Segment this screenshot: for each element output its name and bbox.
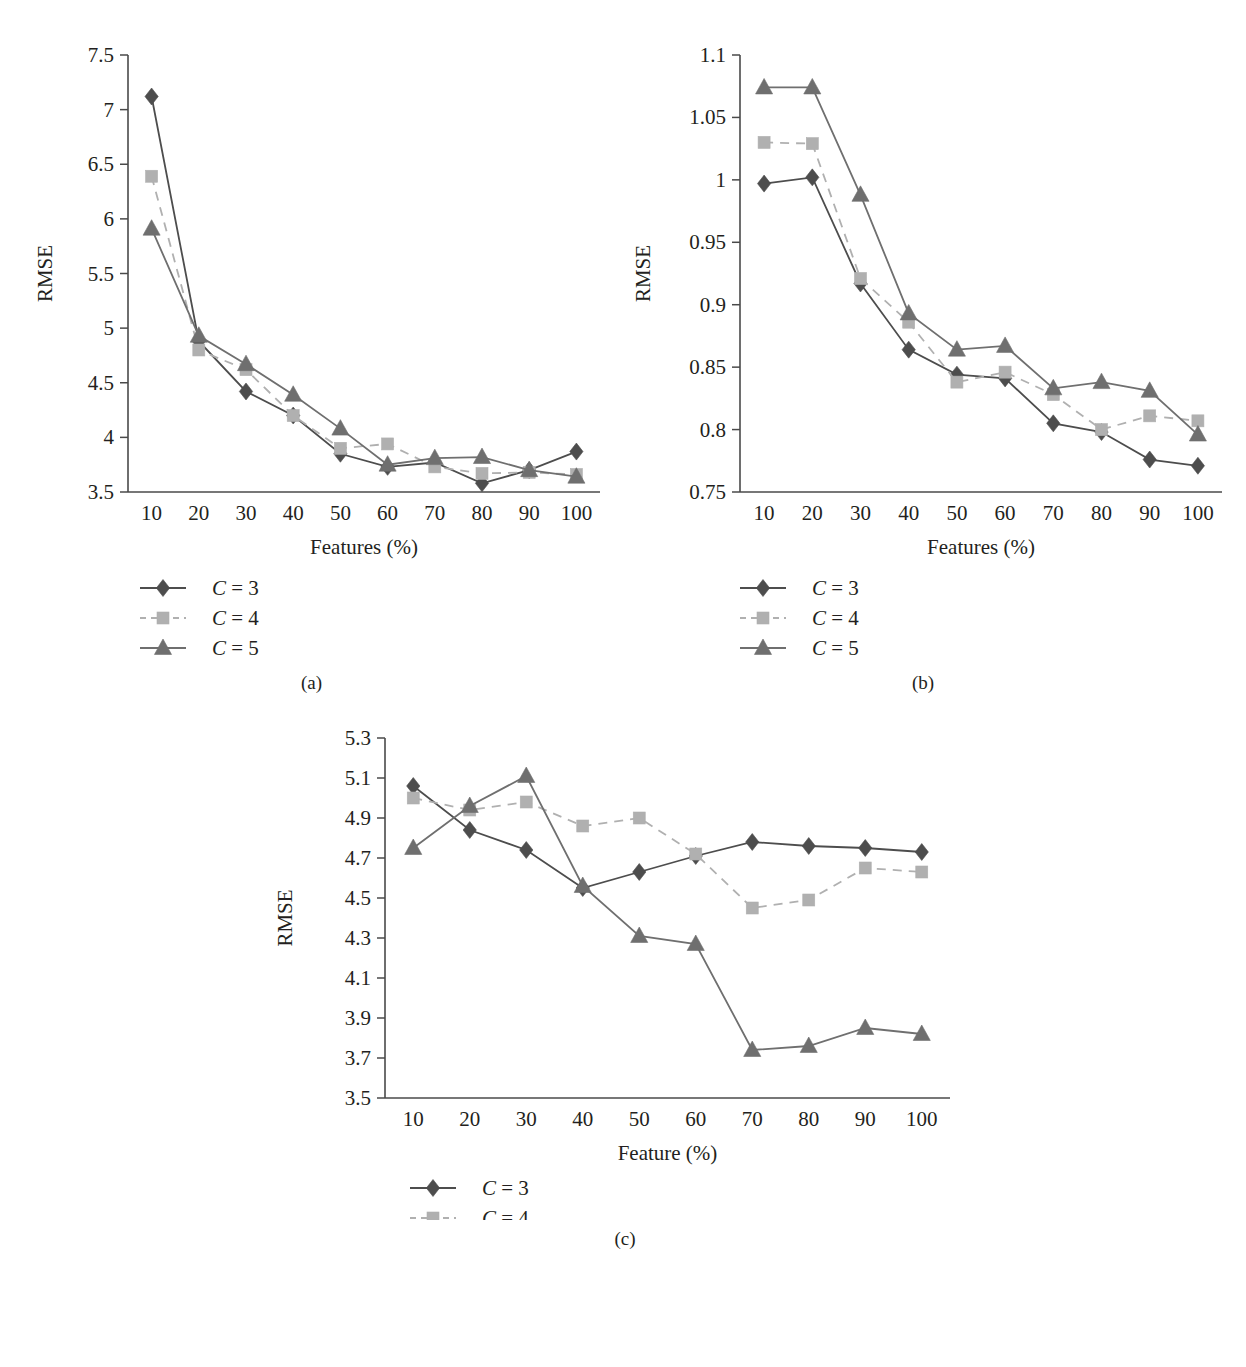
data-point-marker (473, 448, 490, 463)
data-point-marker (758, 136, 770, 148)
data-point-marker (518, 767, 535, 782)
x-tick-label: 50 (946, 501, 967, 525)
x-tick-label: 70 (742, 1107, 763, 1131)
y-tick-label: 6 (104, 207, 115, 231)
y-tick-label: 1.1 (700, 43, 726, 67)
data-point-marker (633, 864, 646, 881)
data-point-marker (803, 894, 815, 906)
subcaption-b: (b) (600, 672, 1246, 694)
x-axis-title: Features (%) (927, 535, 1035, 559)
data-point-marker (190, 327, 207, 342)
data-point-marker (1144, 410, 1156, 422)
y-tick-label: 1 (716, 168, 727, 192)
series-line (764, 142, 1198, 429)
y-tick-label: 5.1 (345, 766, 371, 790)
y-tick-label: 7.5 (88, 43, 114, 67)
data-point-marker (193, 344, 205, 356)
y-axis-title: RMSE (631, 245, 655, 302)
legend-label: C = 3 (212, 576, 259, 600)
data-point-marker (757, 175, 770, 192)
y-tick-label: 4.5 (88, 371, 114, 395)
series-line (413, 786, 922, 888)
data-point-marker (855, 272, 867, 284)
data-point-marker (334, 442, 346, 454)
y-tick-label: 3.5 (88, 480, 114, 504)
data-point-marker (1093, 373, 1110, 388)
legend-triangle-marker (154, 639, 171, 654)
x-tick-label: 100 (906, 1107, 938, 1131)
x-tick-label: 90 (1139, 501, 1160, 525)
chart-b: 0.750.80.850.90.9511.051.110203040506070… (600, 0, 1246, 660)
x-tick-label: 80 (1091, 501, 1112, 525)
data-point-marker (859, 840, 872, 857)
x-tick-label: 50 (330, 501, 351, 525)
data-point-marker (570, 443, 583, 460)
y-tick-label: 3.9 (345, 1006, 371, 1030)
x-axis-title: Feature (%) (618, 1141, 718, 1165)
x-tick-label: 60 (685, 1107, 706, 1131)
data-point-marker (804, 78, 821, 93)
series-C=3 (757, 169, 1204, 474)
legend-square-marker (757, 612, 769, 624)
x-tick-label: 80 (472, 501, 493, 525)
data-point-marker (951, 376, 963, 388)
y-tick-label: 0.8 (700, 418, 726, 442)
data-point-marker (806, 169, 819, 186)
chart-c: 3.53.73.94.14.34.54.74.95.15.31020304050… (230, 700, 1020, 1220)
series-C=4 (146, 170, 583, 480)
y-tick-label: 3.7 (345, 1046, 371, 1070)
x-tick-label: 90 (855, 1107, 876, 1131)
y-tick-label: 4 (104, 425, 115, 449)
x-tick-label: 10 (141, 501, 162, 525)
panel-c: 3.53.73.94.14.34.54.74.95.15.31020304050… (230, 700, 1020, 1260)
legend-label: C = 4 (482, 1206, 529, 1220)
legend-label: C = 4 (812, 606, 859, 630)
x-tick-label: 90 (519, 501, 540, 525)
data-point-marker (146, 170, 158, 182)
legend: C = 3C = 4C = 5 (410, 1176, 529, 1220)
legend-label: C = 3 (812, 576, 859, 600)
legend-label: C = 3 (482, 1176, 529, 1200)
y-tick-label: 4.7 (345, 846, 371, 870)
legend: C = 3C = 4C = 5 (140, 576, 259, 660)
data-point-marker (746, 902, 758, 914)
series-line (152, 229, 577, 477)
subcaption-c: (c) (230, 1228, 1020, 1250)
legend-diamond-marker (756, 580, 769, 597)
data-point-marker (633, 812, 645, 824)
legend-label: C = 4 (212, 606, 259, 630)
x-tick-label: 80 (798, 1107, 819, 1131)
data-point-marker (237, 355, 254, 370)
x-tick-label: 100 (561, 501, 593, 525)
data-point-marker (746, 834, 759, 851)
legend-label: C = 5 (212, 636, 259, 660)
data-point-marker (631, 927, 648, 942)
axes: 0.750.80.850.90.9511.051.110203040506070… (689, 43, 1222, 525)
x-tick-label: 100 (1182, 501, 1214, 525)
data-point-marker (285, 386, 302, 401)
y-tick-label: 5.3 (345, 726, 371, 750)
y-axis-title: RMSE (33, 245, 57, 302)
x-tick-label: 10 (403, 1107, 424, 1131)
x-tick-label: 10 (754, 501, 775, 525)
legend-square-marker (157, 612, 169, 624)
panel-a: 3.544.555.566.577.5102030405060708090100… (0, 0, 623, 710)
data-point-marker (332, 420, 349, 435)
data-point-marker (999, 366, 1011, 378)
x-tick-label: 30 (850, 501, 871, 525)
data-point-marker (407, 792, 419, 804)
y-tick-label: 0.75 (689, 480, 726, 504)
series-line (152, 97, 577, 484)
x-tick-label: 60 (377, 501, 398, 525)
data-point-marker (806, 138, 818, 150)
data-point-marker (802, 838, 815, 855)
y-tick-label: 4.9 (345, 806, 371, 830)
x-tick-label: 70 (424, 501, 445, 525)
series-line (413, 798, 922, 908)
y-tick-label: 4.1 (345, 966, 371, 990)
y-tick-label: 4.3 (345, 926, 371, 950)
data-point-marker (145, 88, 158, 105)
data-point-marker (1189, 426, 1206, 441)
axes: 3.53.73.94.14.34.54.74.95.15.31020304050… (345, 726, 950, 1131)
data-point-marker (690, 848, 702, 860)
